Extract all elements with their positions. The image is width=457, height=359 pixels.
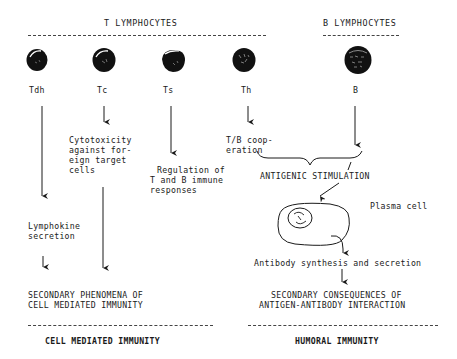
- antigenic-stimulation-label: ANTIGENIC STIMULATION: [260, 171, 370, 181]
- tdh-function-line-1: Lymphokine: [28, 221, 80, 231]
- th-function-line-1: T/B coop-: [226, 135, 273, 145]
- secondary-phenomena-line-2: CELL MEDIATED IMMUNITY: [28, 300, 143, 310]
- antibody-synthesis-label: Antibody synthesis and secretion: [254, 258, 421, 268]
- humoral-immunity-label: HUMORAL IMMUNITY: [295, 336, 379, 346]
- ts-function-line-3: responses: [150, 185, 197, 195]
- tc-function-line-1: Cytotoxicity: [69, 135, 132, 145]
- secondary-phenomena-line-1: SECONDARY PHENOMENA OF: [28, 290, 143, 300]
- th-function-line-2: eration: [226, 145, 263, 155]
- plasma-cell-label: Plasma cell: [370, 201, 428, 211]
- tc-function-line-2: against for-: [69, 145, 132, 155]
- tc-function-line-4: cells: [69, 165, 95, 175]
- secondary-consequences-line-2: ANTIGEN-ANTIBODY INTERACTION: [259, 300, 405, 310]
- tdh-function-line-2: secretion: [28, 231, 75, 241]
- ts-function-line-1: Regulation of: [157, 165, 225, 175]
- cell-mediated-divider: [28, 325, 213, 326]
- humoral-divider: [248, 325, 438, 326]
- tc-function-line-3: eign target: [69, 155, 127, 165]
- ts-function-line-2: T and B immune: [150, 175, 223, 185]
- secondary-consequences-line-1: SECONDARY CONSEQUENCES OF: [271, 290, 402, 300]
- cell-mediated-immunity-label: CELL MEDIATED IMMUNITY: [45, 336, 160, 346]
